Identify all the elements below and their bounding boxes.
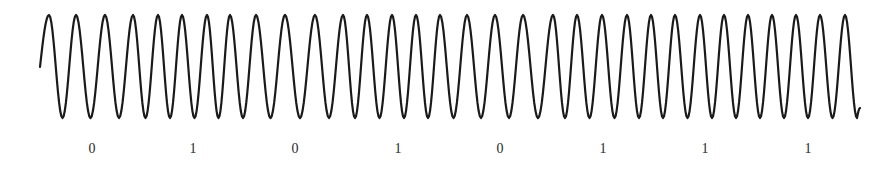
bit-label-4: 0 <box>497 142 504 156</box>
fsk-waveform <box>0 0 896 174</box>
bit-label-3: 1 <box>395 142 402 156</box>
bit-label-5: 1 <box>600 142 607 156</box>
bit-label-1: 1 <box>190 142 197 156</box>
bit-label-7: 1 <box>805 142 812 156</box>
bit-label-2: 0 <box>292 142 299 156</box>
bit-label-6: 1 <box>702 142 709 156</box>
sine-wave-path <box>40 15 860 118</box>
fsk-diagram: 0 1 0 1 0 1 1 1 <box>0 0 896 174</box>
bit-label-0: 0 <box>89 142 96 156</box>
